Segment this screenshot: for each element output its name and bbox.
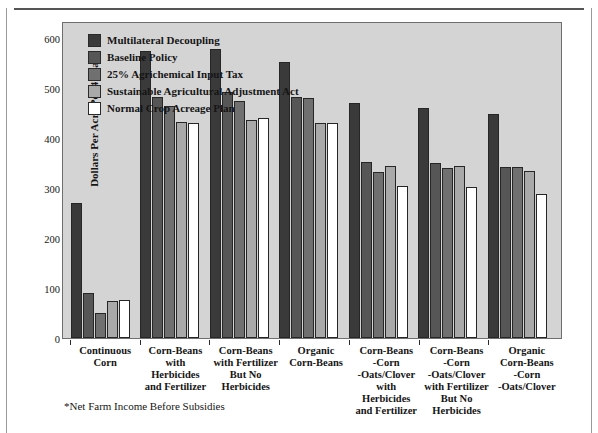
legend-swatch-normal-crop-acreage-plan bbox=[88, 102, 101, 115]
legend-item: Multilateral Decoupling bbox=[88, 32, 299, 48]
bar-chart: Dollars Per Acre Per 4 Years 60050040030… bbox=[62, 22, 562, 339]
legend-swatch-sustainable-agricultural-adjustment-act bbox=[88, 85, 101, 98]
y-axis-tick-label: 0 bbox=[0, 334, 60, 345]
legend-item: Normal Crop Acreage Plan bbox=[88, 100, 299, 116]
x-axis-label: OrganicCorn-Beans-Corn-Oats/Clover bbox=[492, 345, 562, 417]
y-axis-tick-label: 100 bbox=[0, 284, 60, 295]
legend-item: 25% Agrichemical Input Tax bbox=[88, 66, 299, 82]
bar[interactable] bbox=[176, 122, 187, 338]
legend-label-normal-crop-acreage-plan: Normal Crop Acreage Plan bbox=[107, 103, 235, 114]
bar[interactable] bbox=[234, 101, 245, 339]
bar[interactable] bbox=[315, 123, 326, 338]
legend-label-multilateral-decoupling: Multilateral Decoupling bbox=[107, 35, 220, 46]
bar[interactable] bbox=[71, 203, 82, 338]
x-axis-label: Corn-Beans-Corn-Oats/CloverwithHerbicide… bbox=[351, 345, 421, 417]
left-border bbox=[6, 8, 7, 433]
bar[interactable] bbox=[164, 106, 175, 339]
chart-legend: Multilateral Decoupling Baseline Policy … bbox=[88, 32, 299, 117]
bar[interactable] bbox=[107, 301, 118, 339]
bar[interactable] bbox=[418, 108, 429, 338]
bar[interactable] bbox=[349, 103, 360, 338]
legend-item: Baseline Policy bbox=[88, 49, 299, 65]
y-axis-tick-label: 200 bbox=[0, 234, 60, 245]
bar[interactable] bbox=[258, 118, 269, 338]
bar[interactable] bbox=[430, 163, 441, 338]
y-axis-tick-label: 400 bbox=[0, 134, 60, 145]
bar[interactable] bbox=[536, 194, 547, 338]
bar[interactable] bbox=[119, 300, 130, 338]
legend-item: Sustainable Agricultural Adjustment Act bbox=[88, 83, 299, 99]
bar[interactable] bbox=[152, 97, 163, 339]
bar-group bbox=[349, 23, 418, 338]
bar[interactable] bbox=[385, 166, 396, 339]
legend-label-baseline-policy: Baseline Policy bbox=[107, 52, 178, 63]
bar[interactable] bbox=[373, 172, 384, 338]
bar[interactable] bbox=[512, 167, 523, 338]
bar[interactable] bbox=[246, 120, 257, 339]
bar[interactable] bbox=[442, 168, 453, 338]
top-rule bbox=[14, 8, 584, 10]
legend-label-agrichemical-input-tax: 25% Agrichemical Input Tax bbox=[107, 69, 243, 80]
bar-group bbox=[488, 23, 557, 338]
bar[interactable] bbox=[303, 98, 314, 338]
legend-swatch-baseline-policy bbox=[88, 51, 101, 64]
y-axis-tick-label: 300 bbox=[0, 184, 60, 195]
chart-footnote: *Net Farm Income Before Subsidies bbox=[64, 400, 225, 412]
bar[interactable] bbox=[291, 97, 302, 339]
figure-page: Dollars Per Acre Per 4 Years 60050040030… bbox=[0, 0, 598, 433]
bar[interactable] bbox=[83, 293, 94, 338]
bar[interactable] bbox=[500, 167, 511, 339]
bar[interactable] bbox=[488, 114, 499, 338]
bar[interactable] bbox=[397, 186, 408, 339]
bar[interactable] bbox=[454, 166, 465, 339]
bar[interactable] bbox=[327, 123, 338, 338]
bar[interactable] bbox=[188, 123, 199, 338]
right-border bbox=[591, 8, 592, 433]
bar[interactable] bbox=[524, 171, 535, 339]
y-axis-tick-label: 500 bbox=[0, 84, 60, 95]
x-axis-label: OrganicCorn-Beans bbox=[281, 345, 351, 417]
y-axis-tick-label: 600 bbox=[0, 34, 60, 45]
legend-swatch-agrichemical-input-tax bbox=[88, 68, 101, 81]
bar[interactable] bbox=[466, 187, 477, 339]
bar-group bbox=[418, 23, 487, 338]
x-axis-label: Corn-Beans-Corn-Oats/Cloverwith Fertiliz… bbox=[421, 345, 491, 417]
bar[interactable] bbox=[95, 313, 106, 338]
bar[interactable] bbox=[222, 92, 233, 338]
bar[interactable] bbox=[361, 162, 372, 338]
legend-swatch-multilateral-decoupling bbox=[88, 34, 101, 47]
legend-label-sustainable-agricultural-adjustment-act: Sustainable Agricultural Adjustment Act bbox=[107, 86, 299, 97]
